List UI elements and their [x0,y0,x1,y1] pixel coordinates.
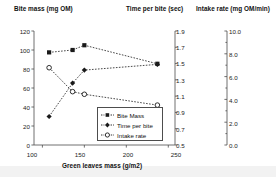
legend-label-bite-mass: Bite Mass [117,112,144,119]
data-point-filled-diamond [47,114,52,119]
series-intake-rate [47,65,160,107]
series-line [49,45,157,64]
legend-item-intake-rate: Intake rate [101,130,160,140]
chart-legend: Bite Mass Time per bite Intake rate [97,107,163,141]
plot-area [0,0,276,177]
series-line [49,68,157,105]
data-point-open-circle [47,65,52,70]
data-point-filled-diamond [82,67,87,72]
data-point-filled-square [71,48,75,52]
data-point-open-circle [82,92,87,97]
legend-label-time-per-bite: Time per bite [117,122,153,129]
data-point-filled-square [47,50,51,54]
data-point-open-circle [70,89,75,94]
data-point-filled-square [82,43,86,47]
open-circle-marker-icon [101,131,114,139]
legend-label-intake-rate: Intake rate [117,132,146,139]
series-bite-mass [47,43,159,66]
filled-diamond-marker-icon [101,121,114,129]
legend-item-bite-mass: Bite Mass [101,110,160,120]
filled-square-marker-icon [101,111,114,119]
legend-item-time-per-bite: Time per bite [101,120,160,130]
chart-figure: Bite mass (mg OM) Time per bite (sec) In… [0,0,276,177]
